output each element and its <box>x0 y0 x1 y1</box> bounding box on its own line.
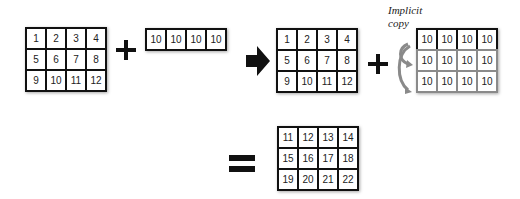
original-row: 10 10 10 10 <box>416 28 498 51</box>
cell: 9 <box>277 71 297 92</box>
copied-rows: 10 10 10 10 10 10 10 10 <box>416 49 498 93</box>
cell: 10 <box>477 71 497 92</box>
cell: 15 <box>278 148 298 169</box>
implicit-copy-label: Implicit copy <box>388 4 422 30</box>
cell: 6 <box>46 49 66 70</box>
cell: 10 <box>437 71 457 92</box>
cell: 10 <box>477 29 497 50</box>
cell: 11 <box>278 127 298 148</box>
cell: 10 <box>477 50 497 71</box>
cell: 10 <box>46 70 66 91</box>
cell: 10 <box>457 50 477 71</box>
cell: 2 <box>297 29 317 50</box>
matrix-a-copy: 1 2 3 4 5 6 7 8 9 10 11 12 <box>276 28 358 93</box>
cell: 13 <box>318 127 338 148</box>
cell: 10 <box>166 29 186 50</box>
cell: 5 <box>277 50 297 71</box>
cell: 1 <box>277 29 297 50</box>
cell: 10 <box>437 29 457 50</box>
cell: 14 <box>338 127 358 148</box>
cell: 20 <box>298 169 318 190</box>
cell: 10 <box>186 29 206 50</box>
cell: 10 <box>417 29 437 50</box>
cell: 21 <box>318 169 338 190</box>
matrix-a: 1 2 3 4 5 6 7 8 9 10 11 12 <box>25 27 107 92</box>
cell: 12 <box>337 71 357 92</box>
cell: 5 <box>26 49 46 70</box>
cell: 12 <box>298 127 318 148</box>
cell: 3 <box>317 29 337 50</box>
cell: 10 <box>297 71 317 92</box>
right-arrow-icon <box>246 46 270 76</box>
equals-icon <box>229 155 255 173</box>
cell: 2 <box>46 28 66 49</box>
cell: 6 <box>297 50 317 71</box>
cell: 9 <box>26 70 46 91</box>
cell: 10 <box>457 29 477 50</box>
plus-icon <box>368 54 388 74</box>
cell: 18 <box>338 148 358 169</box>
annotation-line-1: Implicit <box>388 4 422 17</box>
cell: 12 <box>86 70 106 91</box>
cell: 7 <box>317 50 337 71</box>
cell: 1 <box>26 28 46 49</box>
result-matrix: 11 12 13 14 15 16 17 18 19 20 21 22 <box>277 126 359 191</box>
cell: 3 <box>66 28 86 49</box>
cell: 7 <box>66 49 86 70</box>
cell: 10 <box>457 71 477 92</box>
cell: 10 <box>417 50 437 71</box>
row-vector: 10 10 10 10 <box>145 28 227 51</box>
cell: 8 <box>337 50 357 71</box>
plus-icon <box>116 40 136 60</box>
cell: 22 <box>338 169 358 190</box>
cell: 16 <box>298 148 318 169</box>
cell: 10 <box>206 29 226 50</box>
cell: 17 <box>318 148 338 169</box>
cell: 11 <box>66 70 86 91</box>
cell: 11 <box>317 71 337 92</box>
broadcast-vector: 10 10 10 10 10 10 10 10 10 10 10 10 <box>416 28 498 93</box>
cell: 10 <box>417 71 437 92</box>
curved-copy-arrows-icon <box>396 40 418 94</box>
cell: 19 <box>278 169 298 190</box>
cell: 8 <box>86 49 106 70</box>
cell: 10 <box>146 29 166 50</box>
cell: 4 <box>86 28 106 49</box>
cell: 4 <box>337 29 357 50</box>
cell: 10 <box>437 50 457 71</box>
